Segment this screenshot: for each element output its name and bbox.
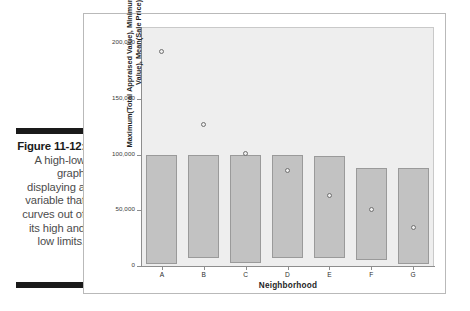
x-tick-mark xyxy=(246,266,247,270)
y-tick-label: 0 xyxy=(131,261,135,268)
y-axis-title: Maximum(Total Appraised Value), Minimum(… xyxy=(125,0,144,156)
caption-figure-number: Figure 11-12: xyxy=(16,140,85,154)
figure-caption: Figure 11-12: A high-low graph displayin… xyxy=(16,128,85,249)
x-tick-mark xyxy=(204,266,205,270)
x-tick-label: D xyxy=(278,271,298,278)
bar-high-low xyxy=(188,155,219,259)
x-tick-label: F xyxy=(361,271,381,278)
x-tick-label: A xyxy=(152,271,172,278)
bar-high-low xyxy=(314,156,345,258)
y-tick-mark xyxy=(137,266,141,267)
x-tick-label: B xyxy=(194,271,214,278)
x-tick-mark xyxy=(329,266,330,270)
caption-rule-top xyxy=(16,128,85,134)
bar-high-low xyxy=(146,155,177,264)
x-tick-label: E xyxy=(319,271,339,278)
mean-marker xyxy=(411,225,416,230)
caption-text: Figure 11-12: A high-low graph displayin… xyxy=(16,140,85,249)
y-tick-mark xyxy=(137,210,141,211)
mean-marker xyxy=(369,207,374,212)
x-tick-mark xyxy=(371,266,372,270)
x-tick-mark xyxy=(288,266,289,270)
x-tick-mark xyxy=(413,266,414,270)
figure-frame: 050,000100,000150,000200,000 ABCDEFG Max… xyxy=(83,13,446,294)
bar-high-low xyxy=(398,168,429,264)
caption-body-text: A high-low graph displaying a variable t… xyxy=(16,154,85,249)
x-tick-label: G xyxy=(403,271,423,278)
bar-high-low xyxy=(356,168,387,260)
x-tick-label: C xyxy=(236,271,256,278)
caption-rule-bottom xyxy=(16,282,85,288)
mean-marker xyxy=(285,168,290,173)
high-low-chart: 050,000100,000150,000200,000 ABCDEFG Max… xyxy=(84,14,447,295)
y-axis-title-holder: Maximum(Total Appraised Value), Minimum(… xyxy=(108,27,120,266)
bar-high-low xyxy=(230,155,261,263)
x-axis-title: Neighborhood xyxy=(141,281,435,290)
x-tick-mark xyxy=(162,266,163,270)
